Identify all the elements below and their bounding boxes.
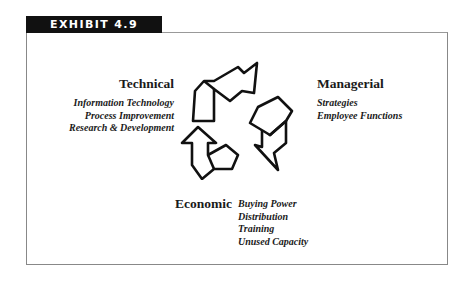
technical-item: Information Technology xyxy=(69,97,174,110)
recycle-cycle-icon xyxy=(180,55,300,180)
economic-item: Training xyxy=(238,223,308,236)
economic-item: Unused Capacity xyxy=(238,236,308,249)
technical-item: Process Improvement xyxy=(69,110,174,123)
technical-item: Research & Development xyxy=(69,122,174,135)
managerial-group: Managerial Strategies Employee Functions xyxy=(317,76,402,122)
technical-group: Technical Information Technology Process… xyxy=(69,76,174,135)
managerial-item: Strategies xyxy=(317,97,402,110)
economic-item: Distribution xyxy=(238,211,308,224)
technical-title: Technical xyxy=(69,76,174,92)
economic-title: Economic xyxy=(175,196,232,212)
managerial-title: Managerial xyxy=(317,76,402,92)
exhibit-label: EXHIBIT 4.9 xyxy=(26,16,162,33)
economic-group: Economic Buying Power Distribution Train… xyxy=(175,196,308,248)
economic-item: Buying Power xyxy=(238,198,308,211)
managerial-item: Employee Functions xyxy=(317,110,402,123)
